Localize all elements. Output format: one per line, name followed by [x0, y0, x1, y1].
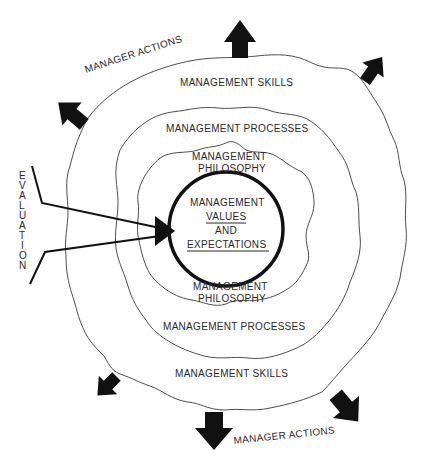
evaluation-label: E V A L U A T I O N [19, 170, 27, 271]
skills-top-label: MANAGEMENT SKILLS [180, 77, 293, 88]
philosophy-top-label-line1: MANAGEMENT [192, 151, 267, 162]
arrow-up-left-icon [49, 91, 94, 136]
core-label-expectations: EXPECTATIONS [187, 239, 266, 250]
philosophy-top-label-line2: PHILOSOPHY [198, 163, 266, 174]
evaluation-line-top [32, 166, 160, 228]
arrow-down-icon [195, 412, 233, 450]
arrow-up-icon [224, 20, 256, 58]
evaluation-line-bottom [30, 236, 160, 284]
management-layers-diagram: MANAGER ACTIONS MANAGER ACTIONS MANAGEME… [0, 0, 442, 464]
manager-actions-top-label: MANAGER ACTIONS [83, 33, 183, 75]
core-label-management: MANAGEMENT [190, 197, 265, 208]
philosophy-bottom-label-line1: MANAGEMENT [193, 281, 268, 292]
manager-actions-bottom-label: MANAGER ACTIONS [233, 424, 335, 446]
arrow-up-right-icon [354, 49, 393, 88]
svg-text:N: N [19, 260, 27, 271]
processes-bottom-label: MANAGEMENT PROCESSES [163, 321, 306, 332]
arrow-down-left-icon [88, 367, 125, 404]
core-label-and: AND [215, 225, 237, 236]
core-label-values: VALUES [206, 211, 247, 222]
philosophy-bottom-label-line2: PHILOSOPHY [198, 293, 266, 304]
skills-bottom-label: MANAGEMENT SKILLS [175, 368, 288, 379]
processes-top-label: MANAGEMENT PROCESSES [166, 123, 309, 134]
